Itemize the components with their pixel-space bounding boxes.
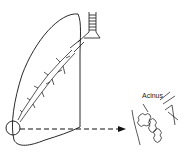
bronchial-tree	[18, 50, 75, 122]
trachea	[70, 12, 100, 52]
arrow-head	[118, 126, 126, 132]
lung-outline	[12, 14, 80, 145]
lung-diagram	[0, 0, 185, 157]
acinus-label: Acinus	[142, 92, 163, 99]
acinus-detail	[132, 92, 178, 145]
